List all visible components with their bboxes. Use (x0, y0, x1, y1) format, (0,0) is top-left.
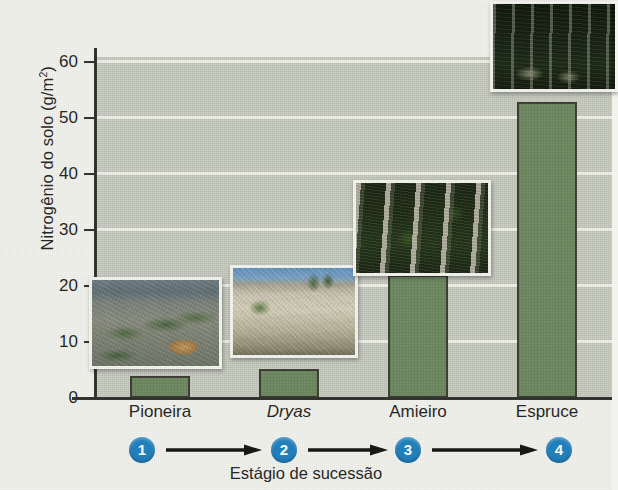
bar-texture (519, 104, 575, 396)
y-tick-label-50: 50 (22, 108, 78, 128)
x-label-amieiro: Amieiro (353, 402, 483, 422)
pioneer-photo-image (92, 280, 219, 366)
bar-texture (390, 277, 446, 396)
y-tick-20: 20 (22, 276, 78, 296)
spruce-stage-photo (490, 1, 618, 92)
dryas-stage-photo (230, 265, 358, 358)
x-axis-title: Estágio de sucessão (0, 464, 612, 483)
y-tick-label-0: 0 (22, 388, 78, 408)
x-label-espruce: Espruce (482, 402, 612, 422)
bar-amieiro (388, 275, 448, 398)
stage-arrow-1-to-2 (166, 444, 262, 456)
y-tick-0: 0 (22, 388, 78, 408)
spruce-photo-image (493, 4, 615, 89)
bar-pioneira (130, 376, 190, 398)
bar-texture (132, 378, 188, 396)
bar-texture (261, 371, 317, 396)
y-tick-label-30: 30 (22, 220, 78, 240)
y-tick-50: 50 (22, 108, 78, 128)
photo-grain (233, 268, 355, 355)
stage-badge-4: 4 (546, 437, 572, 463)
stage-badge-2: 2 (271, 437, 297, 463)
y-tick-label-40: 40 (22, 164, 78, 184)
y-tick-label-10: 10 (22, 332, 78, 352)
y-tick-40: 40 (22, 164, 78, 184)
y-tick-10: 10 (22, 332, 78, 352)
alder-stage-photo (353, 180, 491, 276)
x-axis-line (72, 397, 612, 400)
x-label-dryas: Dryas (224, 402, 354, 422)
y-tick-label-60: 60 (22, 52, 78, 72)
y-tick-60: 60 (22, 52, 78, 72)
pioneer-stage-photo (89, 277, 222, 369)
bar-dryas (259, 369, 319, 398)
dryas-photo-image (233, 268, 355, 355)
y-tick-30: 30 (22, 220, 78, 240)
y-axis-title: Nitrogênio do solo (g/m2) (37, 0, 58, 323)
bar-espruce (517, 102, 577, 398)
y-axis-title-superscript: 2 (37, 72, 49, 78)
stage-arrow-2-to-3 (308, 444, 388, 456)
stage-badge-1: 1 (129, 437, 155, 463)
photo-grain (493, 4, 615, 89)
photo-grain (92, 280, 219, 366)
photo-grain (356, 183, 488, 273)
stage-badge-3: 3 (395, 437, 421, 463)
alder-photo-image (356, 183, 488, 273)
stage-arrow-3-to-4 (432, 444, 538, 456)
y-tick-label-20: 20 (22, 276, 78, 296)
x-label-pioneira: Pioneira (95, 402, 225, 422)
